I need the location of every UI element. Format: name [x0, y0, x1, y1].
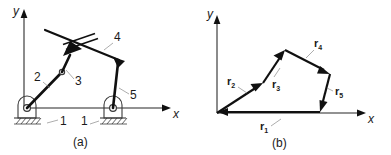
vector-label-r3: r3 — [272, 78, 280, 92]
y-axis-label-a: y — [12, 4, 20, 18]
y-axis-a — [21, 9, 28, 108]
link-label-5: 5 — [130, 88, 137, 102]
caption-b: (b) — [272, 136, 287, 150]
leader-link-1-right — [90, 121, 99, 124]
link-label-1-right: 1 — [81, 114, 88, 128]
leader-r5 — [327, 88, 333, 91]
x-axis-label-a: x — [172, 107, 180, 121]
panel-a-canvas: y x — [0, 0, 196, 155]
vector-r2 — [217, 83, 263, 113]
leader-link-3 — [66, 70, 74, 79]
link-label-1-left: 1 — [60, 114, 67, 128]
vector-label-r1: r1 — [260, 120, 268, 134]
link-4-bar — [45, 30, 119, 60]
leader-r1 — [271, 119, 281, 126]
r1-sub: 1 — [264, 127, 268, 134]
ground-hatch-right — [100, 118, 127, 124]
leader-r4 — [306, 50, 314, 58]
figure-container: y x — [0, 0, 391, 155]
r3-sub: 3 — [276, 85, 280, 92]
caption-a: (a) — [73, 135, 88, 149]
panel-b-canvas: y x — [196, 0, 391, 155]
y-axis-label-b: y — [206, 7, 214, 21]
link-label-3: 3 — [75, 74, 82, 88]
x-axis-label-b: x — [367, 112, 375, 126]
vector-r5 — [320, 74, 331, 112]
leader-r2 — [238, 87, 247, 93]
ground-support-left — [14, 96, 41, 124]
vector-r1 — [218, 108, 320, 116]
link-3-bar — [62, 55, 70, 72]
leader-r3 — [274, 68, 280, 77]
panel-b-vector-loop: y x — [196, 0, 391, 155]
y-axis-b — [214, 15, 221, 113]
vector-label-r4: r4 — [314, 37, 322, 51]
link-2-bar — [27, 72, 62, 108]
link-5-bar — [113, 57, 125, 108]
panel-a-mechanism: y x — [0, 0, 196, 155]
vector-r4 — [285, 50, 330, 74]
vector-label-r5: r5 — [335, 85, 343, 99]
x-axis-a — [24, 105, 171, 112]
link-label-4: 4 — [114, 30, 121, 44]
leader-link-5 — [119, 88, 129, 94]
leader-link-1-left — [47, 120, 58, 123]
vector-label-r2: r2 — [227, 75, 235, 89]
r2-sub: 2 — [231, 82, 235, 89]
leader-link-4 — [104, 43, 113, 50]
link-label-2: 2 — [34, 70, 41, 84]
ground-hatch-left — [14, 118, 41, 124]
r4-sub: 4 — [318, 44, 322, 51]
r5-sub: 5 — [339, 92, 343, 99]
